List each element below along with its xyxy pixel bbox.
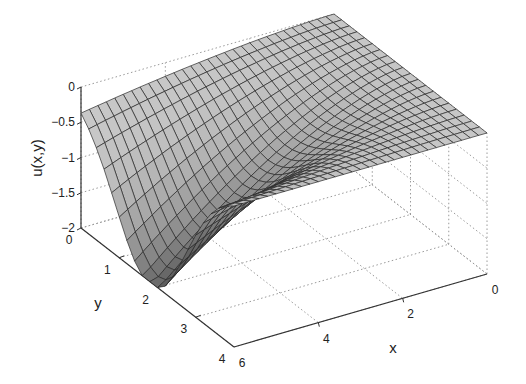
y-tick-label: 1	[104, 263, 111, 277]
surface-plot: 0−0.5−1−1.5−2012340246 u(x,y) y x	[0, 0, 526, 384]
floor-grid-line	[196, 244, 449, 317]
y-tick-label: 3	[180, 322, 187, 336]
x-axis-label: x	[389, 339, 397, 356]
z-axis-label: u(x,y)	[28, 139, 45, 177]
x-tick-label: 4	[323, 332, 330, 346]
wall-grid-line	[334, 155, 487, 274]
z-tick-label: −1.5	[51, 186, 75, 200]
surface-mesh	[81, 14, 487, 288]
y-tick-label: 2	[142, 293, 149, 307]
x-tick-label: 6	[239, 356, 246, 370]
z-tick-label: −1	[61, 151, 75, 165]
x-tick	[403, 298, 404, 302]
z-tick-label: 0	[68, 80, 75, 94]
x-axis-line	[234, 274, 487, 347]
y-axis-label: y	[94, 294, 102, 311]
y-tick-label: 4	[219, 352, 226, 366]
x-tick	[318, 323, 319, 327]
z-tick	[77, 228, 81, 230]
x-tick-label: 2	[407, 307, 414, 321]
y-tick-label: 0	[66, 233, 73, 247]
floor-grid-line	[250, 179, 403, 298]
x-tick-label: 0	[492, 283, 499, 297]
z-tick-label: −0.5	[51, 115, 75, 129]
